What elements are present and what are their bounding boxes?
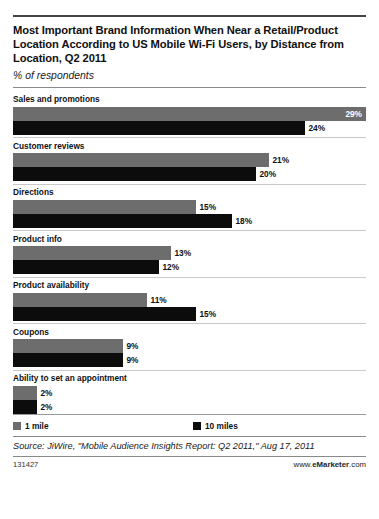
bar-value-label: 9% — [123, 353, 139, 367]
bar-value-label: 29% — [332, 107, 362, 121]
bar-group-label: Coupons — [13, 324, 366, 339]
footer-row: 131427 www.eMarketer.com — [13, 457, 366, 469]
bar-series2[interactable] — [13, 121, 305, 135]
bar-row: 12% — [13, 260, 366, 274]
bar-row: 9% — [13, 353, 366, 367]
bar-value-label: 15% — [196, 307, 216, 321]
bar-series2[interactable] — [13, 214, 232, 228]
chart-title: Most Important Brand Information When Ne… — [13, 23, 366, 66]
header-top-rule — [13, 15, 366, 17]
bar-series1[interactable] — [13, 246, 171, 260]
chart-id: 131427 — [13, 460, 38, 469]
bar-value-label: 21% — [269, 153, 289, 167]
legend-item-1-mile[interactable]: 1 mile — [13, 421, 193, 431]
bar-row: 20% — [13, 167, 366, 181]
header-bottom-rule — [13, 87, 366, 88]
bar-series2[interactable] — [13, 353, 123, 367]
bar-row: 2% — [13, 386, 366, 400]
bar-value-label: 2% — [37, 400, 53, 414]
bar-series2[interactable] — [13, 307, 196, 321]
bar-row: 11% — [13, 293, 366, 307]
bar-series2[interactable] — [13, 400, 37, 414]
bar-value-label: 18% — [232, 214, 252, 228]
bar-row: 2% — [13, 400, 366, 414]
legend-item-10-miles[interactable]: 10 miles — [193, 421, 238, 431]
bar-group: Directions15%18% — [13, 185, 366, 228]
legend-label-10-miles: 10 miles — [205, 421, 238, 431]
bar-row: 15% — [13, 307, 366, 321]
chart-sheet: Most Important Brand Information When Ne… — [0, 0, 379, 519]
bar-group-label: Product info — [13, 231, 366, 246]
brand-suffix: .com — [349, 460, 366, 469]
bar-group-label: Sales and promotions — [13, 92, 366, 107]
bar-value-label: 20% — [256, 167, 276, 181]
brand-prefix: www. — [294, 460, 313, 469]
bar-group: Coupons9%9% — [13, 324, 366, 367]
legend-swatch-icon-1-mile — [13, 422, 21, 430]
bar-group: Ability to set an appointment2%2% — [13, 371, 366, 414]
bar-group-label: Directions — [13, 185, 366, 200]
brand-name: eMarketer — [312, 460, 349, 469]
bar-group: Product info13%12% — [13, 231, 366, 274]
bar-value-label: 15% — [196, 200, 216, 214]
legend-swatch-icon-10-miles — [193, 422, 201, 430]
bar-series1[interactable] — [13, 339, 123, 353]
bar-series2[interactable] — [13, 260, 159, 274]
legend-label-1-mile: 1 mile — [25, 421, 49, 431]
bar-row: 13% — [13, 246, 366, 260]
bar-group-label: Product availability — [13, 278, 366, 293]
bar-value-label: 24% — [305, 121, 325, 135]
bar-value-label: 2% — [37, 386, 53, 400]
brand-watermark: www.eMarketer.com — [294, 460, 366, 469]
bar-series1[interactable] — [13, 107, 366, 121]
chart-subtitle: % of respondents — [13, 69, 366, 82]
bar-series1[interactable] — [13, 153, 269, 167]
bar-row: 18% — [13, 214, 366, 228]
bar-row: 15% — [13, 200, 366, 214]
bar-row: 21% — [13, 153, 366, 167]
bar-value-label: 12% — [159, 260, 179, 274]
bar-group-label: Ability to set an appointment — [13, 371, 366, 386]
bar-series1[interactable] — [13, 293, 147, 307]
bar-value-label: 13% — [171, 246, 191, 260]
bar-chart-body: Sales and promotions29%24%Customer revie… — [13, 92, 366, 414]
chart-legend: 1 mile 10 miles — [13, 415, 366, 436]
bar-series1[interactable] — [13, 386, 37, 400]
bar-row: 9% — [13, 339, 366, 353]
source-note: Source: JiWire, "Mobile Audience Insight… — [13, 437, 366, 456]
bar-group-label: Customer reviews — [13, 138, 366, 153]
bar-row: 24% — [13, 121, 366, 135]
bar-value-label: 11% — [147, 293, 167, 307]
bar-series1[interactable] — [13, 200, 196, 214]
bar-group: Product availability11%15% — [13, 278, 366, 321]
bar-row: 29% — [13, 107, 366, 121]
bar-series2[interactable] — [13, 167, 256, 181]
bar-group: Customer reviews21%20% — [13, 138, 366, 181]
bar-group: Sales and promotions29%24% — [13, 92, 366, 135]
bar-value-label: 9% — [123, 339, 139, 353]
